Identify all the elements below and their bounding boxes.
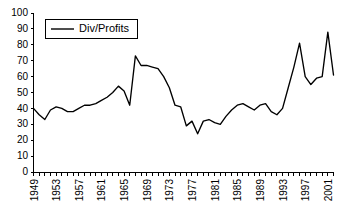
x-tick-label: 1953 bbox=[51, 179, 62, 202]
x-tick-label: 1949 bbox=[29, 179, 40, 202]
x-tick-label: 1997 bbox=[300, 179, 311, 202]
x-axis: 1949195319571961196519691973197719811985… bbox=[29, 172, 334, 201]
x-tick-label: 1989 bbox=[255, 179, 266, 202]
legend-label: Div/Profits bbox=[79, 22, 130, 34]
y-tick-label: 50 bbox=[17, 87, 29, 98]
chart-legend: Div/Profits bbox=[45, 20, 137, 39]
x-tick-label: 2001 bbox=[323, 179, 334, 202]
x-tick-label: 1957 bbox=[74, 179, 85, 202]
x-tick-label: 1977 bbox=[187, 179, 198, 202]
y-tick-label: 60 bbox=[17, 71, 29, 82]
y-axis: 0102030405060708090100 bbox=[11, 7, 33, 177]
y-tick-label: 10 bbox=[17, 150, 29, 161]
x-tick-label: 1985 bbox=[232, 179, 243, 202]
chart-figure: 0102030405060708090100 19491953195719611… bbox=[0, 0, 343, 211]
y-tick-label: 20 bbox=[17, 134, 29, 145]
x-tick-label: 1993 bbox=[278, 179, 289, 202]
x-tick-label: 1969 bbox=[142, 179, 153, 202]
y-tick-label: 40 bbox=[17, 103, 29, 114]
x-tick-label: 1961 bbox=[96, 179, 107, 202]
y-tick-label: 80 bbox=[17, 39, 29, 50]
data-series-group bbox=[34, 32, 334, 134]
x-tick-label: 1981 bbox=[210, 179, 221, 202]
x-tick-label: 1973 bbox=[164, 179, 175, 202]
y-tick-label: 0 bbox=[22, 166, 28, 177]
x-tick-label: 1965 bbox=[119, 179, 130, 202]
line-chart: 0102030405060708090100 19491953195719611… bbox=[0, 0, 343, 211]
y-tick-label: 100 bbox=[11, 7, 28, 18]
series-line-div-profits bbox=[34, 32, 334, 134]
y-tick-label: 90 bbox=[17, 23, 29, 34]
y-tick-label: 30 bbox=[17, 118, 29, 129]
y-tick-label: 70 bbox=[17, 55, 29, 66]
